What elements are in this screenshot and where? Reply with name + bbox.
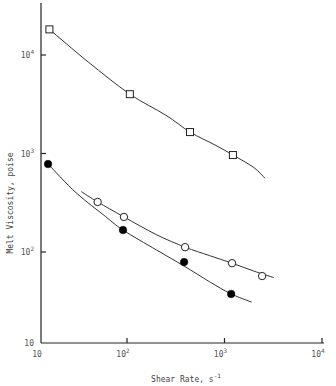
plot-area [44, 26, 273, 302]
open-circle-marker [94, 198, 101, 205]
fit-curve [48, 164, 252, 302]
y-tick-label: 103 [21, 147, 35, 159]
series-circle-open [81, 192, 273, 280]
series-circle-filled [44, 160, 251, 302]
x-tick-label: 104 [311, 347, 325, 359]
square-marker [229, 152, 236, 159]
x-tick-label: 10 [32, 350, 42, 359]
x-axis: 10102103104 [32, 338, 325, 359]
open-circle-marker [258, 272, 265, 279]
x-tick-label: 102 [116, 347, 130, 359]
x-ticks: 10102103104 [32, 338, 325, 359]
filled-circle-marker [180, 258, 188, 266]
viscosity-chart: 10102103104 10102103104 Melt Viscosity, … [0, 0, 336, 386]
y-axis: 10102103104 [21, 3, 46, 348]
square-marker [46, 26, 53, 33]
open-circle-marker [228, 259, 235, 266]
y-tick-label: 102 [21, 245, 35, 257]
square-marker [126, 91, 133, 98]
x-axis-title: Shear Rate, s-1 [151, 372, 221, 384]
y-axis-title: Melt Viscosity, poise [6, 152, 15, 253]
y-tick-label: 10 [24, 339, 34, 348]
x-tick-label: 103 [214, 347, 228, 359]
x-axis-title-text: Shear Rate, s [151, 375, 214, 384]
fit-curve [81, 192, 273, 278]
square-marker [187, 129, 194, 136]
filled-circle-marker [119, 226, 127, 234]
open-circle-marker [120, 213, 127, 220]
y-tick-label: 104 [21, 48, 35, 60]
filled-circle-marker [44, 160, 52, 168]
y-ticks: 10102103104 [21, 48, 46, 348]
filled-circle-marker [227, 290, 235, 298]
series-square-open [46, 26, 265, 178]
open-circle-marker [181, 243, 188, 250]
x-axis-title-sup: -1 [214, 372, 222, 379]
